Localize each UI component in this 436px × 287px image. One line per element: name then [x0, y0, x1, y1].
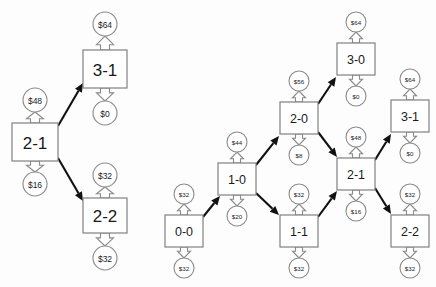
cost-label: $32	[179, 191, 190, 198]
edge-line	[318, 85, 331, 105]
edge-r-1-1-to-r-2-1	[318, 191, 337, 217]
block-arrow-up-r-3-0	[350, 32, 363, 43]
state-node-r-1-1[interactable]: 1-1	[280, 215, 318, 247]
cost-node-up-r-3-0: $64	[346, 12, 366, 32]
node-label: 3-1	[93, 61, 118, 80]
block-arrow-down-r-1-1	[293, 247, 306, 258]
state-node-r-3-0[interactable]: 3-0	[337, 43, 375, 75]
edge-line	[375, 188, 386, 206]
cost-node-down-r-1-1: $32	[289, 258, 309, 278]
block-arrow-up-l-2-1	[27, 112, 44, 123]
cost-label: $32	[294, 191, 305, 198]
cost-node-up-l-2-2: $32	[93, 163, 117, 187]
cost-node-down-r-3-0: $0	[346, 86, 366, 106]
node-label: 1-1	[290, 225, 308, 239]
block-arrow-up-l-2-2	[97, 187, 114, 198]
edge-line	[318, 132, 332, 150]
cost-node-up-r-2-2: $32	[400, 184, 420, 204]
node-label: 3-0	[347, 53, 365, 67]
cost-label: $56	[294, 78, 305, 85]
cost-label: $0	[353, 93, 360, 100]
state-node-r-2-0[interactable]: 2-0	[280, 102, 318, 134]
block-arrow-down-r-3-1	[404, 132, 417, 143]
block-arrow-down-r-1-0	[231, 195, 244, 206]
cost-node-down-r-2-0: $8	[289, 145, 309, 165]
block-arrow-down-r-2-0	[293, 134, 306, 145]
state-node-r-2-1[interactable]: 2-1	[337, 158, 375, 190]
cost-node-up-l-3-1: $64	[93, 12, 117, 36]
cost-node-up-r-0-0: $32	[174, 184, 194, 204]
node-label: 2-2	[93, 207, 118, 226]
block-arrow-up-r-1-1	[293, 204, 306, 215]
cost-label: $16	[28, 180, 42, 190]
edge-r-2-1-to-r-3-1	[375, 134, 391, 160]
state-node-l-2-1[interactable]: 2-1	[12, 123, 58, 161]
block-arrow-down-l-2-2	[97, 233, 114, 246]
cost-node-down-r-1-0: $20	[227, 206, 247, 226]
block-arrow-up-l-3-1	[97, 36, 114, 50]
block-arrow-down-r-0-0	[178, 247, 191, 258]
block-arrow-down-l-2-1	[27, 161, 44, 172]
block-arrow-down-l-3-1	[97, 88, 114, 101]
cost-label: $32	[294, 265, 305, 272]
cost-label: $0	[407, 150, 414, 157]
node-label: 2-1	[23, 134, 48, 153]
edge-r-2-0-to-r-3-0	[318, 77, 336, 104]
block-arrow-down-r-2-1	[350, 190, 363, 201]
state-node-r-2-2[interactable]: 2-2	[391, 215, 429, 247]
node-label: 2-2	[401, 225, 419, 239]
edge-line	[375, 142, 386, 160]
block-arrow-up-r-3-1	[404, 89, 417, 100]
edge-r-0-0-to-r-1-0	[203, 196, 220, 217]
edge-line	[318, 198, 332, 217]
block-arrow-up-r-0-0	[178, 204, 191, 215]
cost-label: $32	[405, 265, 416, 272]
cost-label: $64	[405, 76, 416, 83]
cost-label: $64	[351, 19, 362, 26]
edge-r-2-0-to-r-2-1	[318, 132, 337, 157]
cost-label: $20	[232, 213, 243, 220]
state-node-r-3-1[interactable]: 3-1	[391, 100, 429, 132]
cost-label: $44	[232, 139, 243, 146]
state-node-l-2-2[interactable]: 2-2	[83, 198, 127, 233]
block-arrow-up-r-2-1	[350, 147, 363, 158]
block-arrow-up-r-2-2	[404, 204, 417, 215]
block-arrow-up-r-1-0	[231, 152, 244, 163]
edge-line	[203, 203, 214, 217]
cost-label: $0	[100, 109, 110, 119]
state-node-l-3-1[interactable]: 3-1	[83, 50, 127, 88]
block-arrow-down-r-2-2	[404, 247, 417, 258]
state-node-r-1-0[interactable]: 1-0	[218, 163, 256, 195]
cost-node-down-r-2-1: $16	[346, 201, 366, 221]
cost-node-up-r-1-1: $32	[289, 184, 309, 204]
cost-node-up-l-2-1: $48	[23, 88, 47, 112]
edge-r-2-1-to-r-2-2	[375, 188, 391, 214]
edge-r-1-0-to-r-1-1	[256, 193, 279, 215]
cost-node-up-r-2-0: $56	[289, 71, 309, 91]
node-label: 2-1	[347, 168, 365, 182]
edge-arrowhead	[328, 77, 336, 87]
cost-node-down-l-2-2: $32	[93, 246, 117, 270]
cost-label: $32	[98, 254, 112, 264]
cost-node-up-r-1-0: $44	[227, 132, 247, 152]
edge-line	[256, 143, 273, 165]
edge-line	[58, 91, 79, 126]
edge-l-2-1-to-l-3-1	[58, 83, 83, 126]
cost-label: $48	[351, 134, 362, 141]
block-arrow-up-r-2-0	[293, 91, 306, 102]
cost-label: $32	[179, 265, 190, 272]
cost-label: $64	[98, 20, 112, 30]
cost-label: $32	[98, 171, 112, 181]
node-label: 3-1	[401, 110, 419, 124]
cost-label: $16	[351, 208, 362, 215]
cost-node-up-r-2-1: $48	[346, 127, 366, 147]
edge-r-1-0-to-r-2-0	[256, 136, 279, 165]
state-node-r-0-0[interactable]: 0-0	[165, 215, 203, 247]
edge-l-2-1-to-l-2-2	[58, 158, 83, 201]
node-label: 1-0	[228, 173, 246, 187]
cost-label: $8	[296, 152, 303, 159]
diagram-canvas: $48$162-1$64$03-1$32$322-2$32$320-0$44$2…	[0, 0, 436, 287]
cost-label: $48	[28, 96, 42, 106]
cost-label: $32	[405, 191, 416, 198]
cost-node-up-r-3-1: $64	[400, 69, 420, 89]
